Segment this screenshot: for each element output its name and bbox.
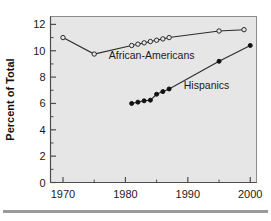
data-point-african-americans xyxy=(142,41,146,45)
data-point-african-americans xyxy=(61,35,65,39)
bottom-divider xyxy=(3,210,268,213)
y-axis-tick-label: 6 xyxy=(39,97,45,109)
data-point-hispanics xyxy=(248,43,252,47)
data-point-african-americans xyxy=(92,52,96,56)
y-axis-tick-label: 0 xyxy=(39,177,45,189)
y-axis-label: Percent of Total xyxy=(4,58,16,140)
data-point-african-americans xyxy=(129,43,133,47)
data-point-hispanics xyxy=(155,92,159,96)
data-point-hispanics xyxy=(148,98,152,102)
data-point-african-americans xyxy=(161,37,165,41)
y-axis-tick-label: 4 xyxy=(39,124,45,136)
data-point-african-americans xyxy=(148,39,152,43)
x-axis-tick-label: 2000 xyxy=(238,188,262,200)
chart-figure: Percent of Total024681012197019801990200… xyxy=(0,0,271,221)
data-point-african-americans xyxy=(217,29,221,33)
data-point-hispanics xyxy=(217,59,221,63)
data-point-hispanics xyxy=(167,87,171,91)
data-point-hispanics xyxy=(142,99,146,103)
y-axis-tick-label: 12 xyxy=(33,18,45,30)
data-point-african-americans xyxy=(136,42,140,46)
data-point-hispanics xyxy=(136,100,140,104)
data-point-african-americans xyxy=(154,38,158,42)
y-axis-tick-label: 2 xyxy=(39,150,45,162)
line-chart: Percent of Total024681012197019801990200… xyxy=(0,0,271,221)
data-point-hispanics xyxy=(161,90,165,94)
y-axis-tick-label: 10 xyxy=(33,45,45,57)
series-annotation-african-americans: African-Americans xyxy=(109,49,195,61)
data-point-african-americans xyxy=(167,35,171,39)
y-axis-tick-label: 8 xyxy=(39,71,45,83)
x-axis-tick-label: 1990 xyxy=(176,188,200,200)
series-annotation-hispanics: Hispanics xyxy=(184,79,230,91)
x-axis-tick-label: 1970 xyxy=(51,188,75,200)
data-point-hispanics xyxy=(130,101,134,105)
x-axis-tick-label: 1980 xyxy=(113,188,137,200)
data-point-african-americans xyxy=(242,27,246,31)
